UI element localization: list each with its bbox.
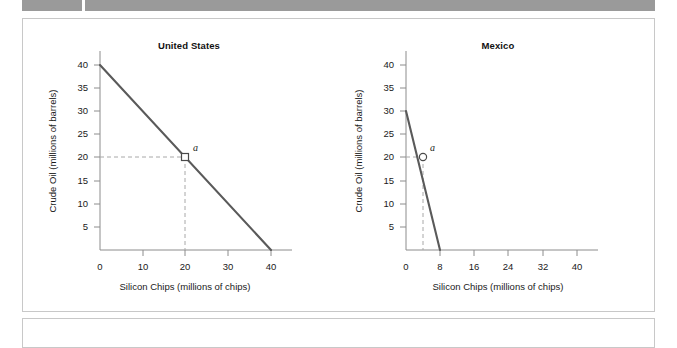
- y-tick-label: 30: [383, 105, 394, 116]
- x-tick-label: 24: [503, 261, 514, 272]
- y-axis-title-us: Crude Oil (millions of barrels): [47, 89, 58, 212]
- y-axis-title-mx: Crude Oil (millions of barrels): [353, 89, 364, 212]
- united-states-svg: 5 10 15 20 25 30 35 40 0: [10, 18, 310, 294]
- x-tick-label: 20: [180, 261, 191, 272]
- y-tick-label: 30: [77, 105, 88, 116]
- y-tick-label: 20: [77, 151, 88, 162]
- chart-plot-united-states: 5 10 15 20 25 30 35 40 0: [10, 18, 310, 294]
- y-tick-label: 10: [383, 198, 394, 209]
- x-tick-label: 40: [266, 261, 277, 272]
- y-ticks-us: [94, 65, 100, 227]
- y-tick-label: 15: [77, 175, 88, 186]
- x-ticks-mx: [440, 250, 577, 256]
- y-tick-label: 10: [77, 198, 88, 209]
- y-tick-label: 25: [383, 128, 394, 139]
- x-ticks-us: [143, 250, 271, 256]
- y-tick-label: 25: [77, 128, 88, 139]
- x-tick-label: 0: [403, 261, 408, 272]
- chart-mexico: Mexico 5 10 15: [320, 18, 620, 294]
- x-tick-label: 8: [437, 261, 442, 272]
- x-axis-title-mx: Silicon Chips (millions of chips): [433, 281, 564, 292]
- page-header-strip: [0, 0, 677, 11]
- x-tick-label: 0: [97, 261, 102, 272]
- point-marker-a-mx: [419, 153, 426, 160]
- point-label-a-mx: a: [430, 142, 435, 153]
- x-tick-labels-mx: 0 8 16 24 32 40: [403, 261, 582, 272]
- y-tick-label: 15: [383, 175, 394, 186]
- header-left-segment: [22, 0, 82, 11]
- chart-united-states: United States 5: [10, 18, 310, 294]
- point-marker-a-us: [182, 154, 189, 161]
- y-tick-label: 20: [383, 151, 394, 162]
- x-tick-label: 40: [572, 261, 583, 272]
- y-tick-label: 35: [383, 82, 394, 93]
- y-tick-labels-us: 5 10 15 20 25 30 35 40: [77, 59, 88, 232]
- x-tick-label: 10: [138, 261, 149, 272]
- y-ticks-mx: [400, 65, 406, 227]
- x-tick-label: 32: [538, 261, 549, 272]
- y-tick-label: 40: [77, 59, 88, 70]
- chart-plot-mexico: 5 10 15 20 25 30 35 40: [320, 18, 620, 294]
- header-right-segment: [85, 0, 655, 11]
- x-tick-label: 30: [223, 261, 234, 272]
- x-axis-title-us: Silicon Chips (millions of chips): [120, 281, 251, 292]
- y-tick-labels-mx: 5 10 15 20 25 30 35 40: [383, 59, 394, 232]
- y-tick-label: 40: [383, 59, 394, 70]
- y-tick-label: 35: [77, 82, 88, 93]
- point-label-a-us: a: [193, 142, 198, 153]
- caption-panel: [22, 318, 655, 348]
- x-tick-labels-us: 0 10 20 30 40: [97, 261, 276, 272]
- y-tick-label: 5: [83, 221, 88, 232]
- x-tick-label: 16: [469, 261, 480, 272]
- y-tick-label: 5: [389, 221, 394, 232]
- mexico-svg: 5 10 15 20 25 30 35 40: [320, 18, 620, 294]
